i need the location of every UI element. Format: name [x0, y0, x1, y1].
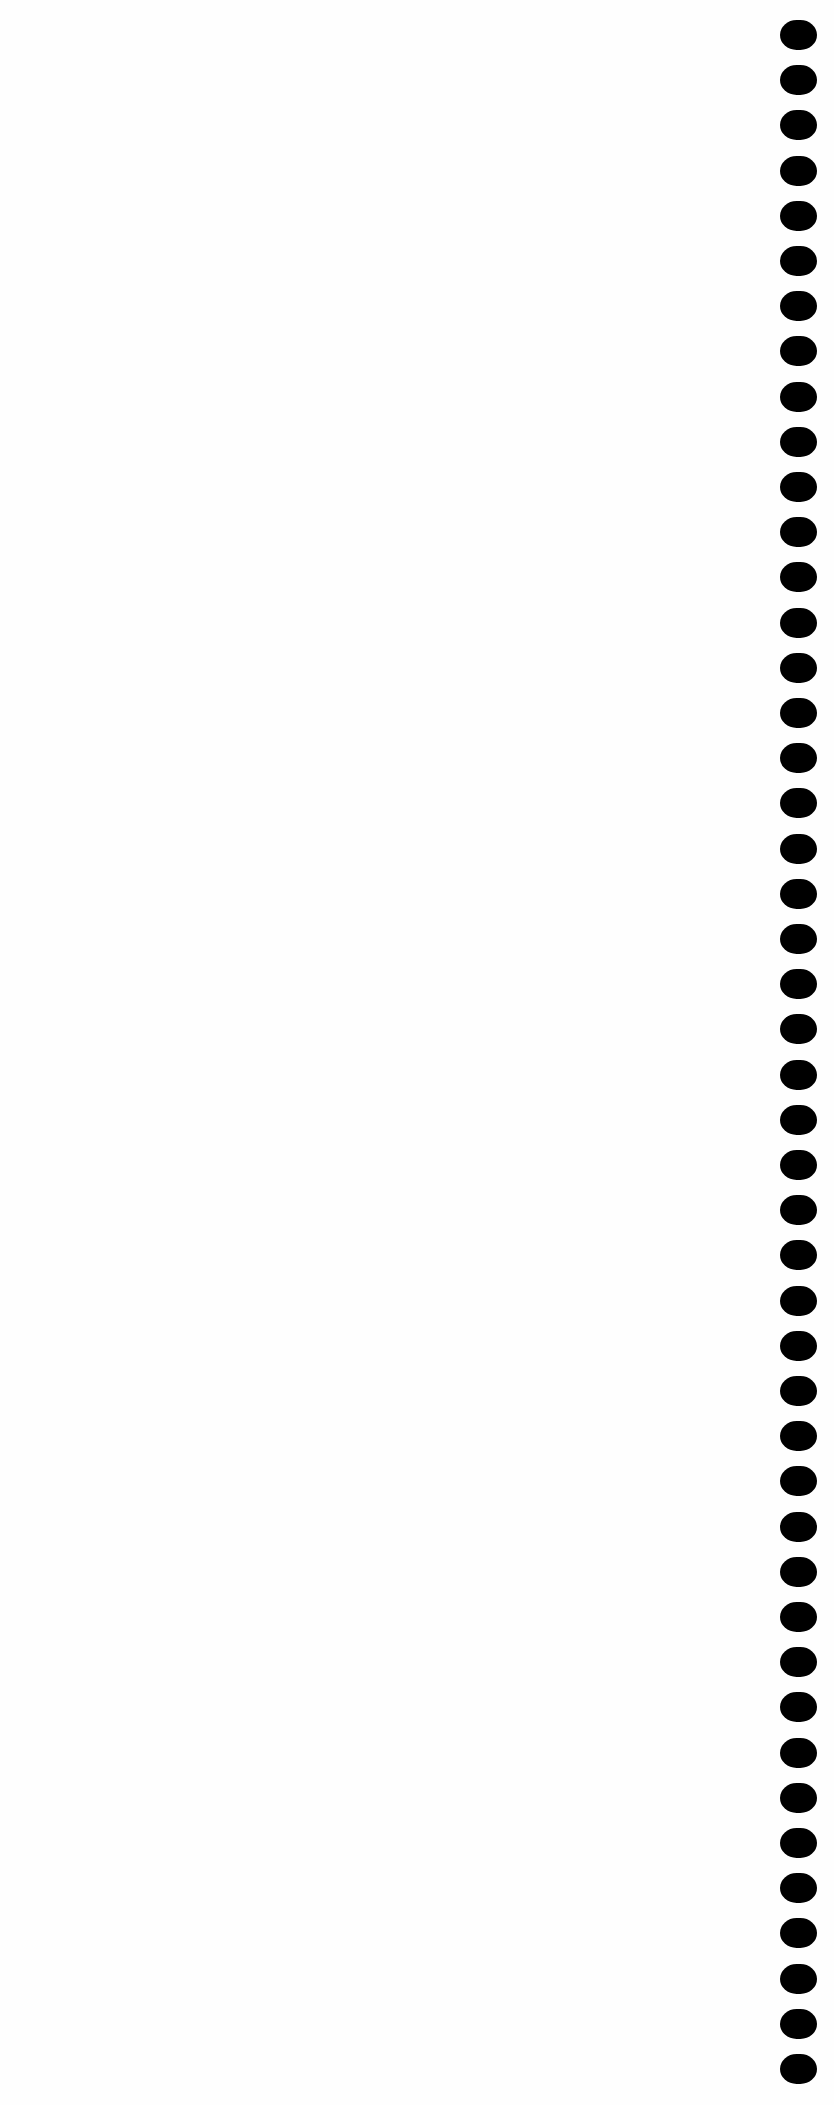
- binding-hole-icon: [780, 1512, 817, 1542]
- binding-hole-icon: [780, 924, 817, 954]
- binding-hole-icon: [780, 1331, 817, 1361]
- binding-hole-icon: [780, 291, 817, 321]
- binding-hole-icon: [780, 698, 817, 728]
- binding-hole-icon: [780, 1286, 817, 1316]
- binding-hole-icon: [780, 1692, 817, 1722]
- binding-hole-icon: [780, 201, 817, 231]
- binding-holes-column: [780, 0, 820, 2105]
- binding-hole-icon: [780, 336, 817, 366]
- binding-hole-icon: [780, 1557, 817, 1587]
- binding-hole-icon: [780, 562, 817, 592]
- binding-hole-icon: [780, 1195, 817, 1225]
- binding-hole-icon: [780, 1738, 817, 1768]
- binding-hole-icon: [780, 788, 817, 818]
- binding-hole-icon: [780, 743, 817, 773]
- binding-hole-icon: [780, 834, 817, 864]
- binding-hole-icon: [780, 1240, 817, 1270]
- binding-hole-icon: [780, 1828, 817, 1858]
- binding-hole-icon: [780, 1783, 817, 1813]
- binding-hole-icon: [780, 2009, 817, 2039]
- binding-hole-icon: [780, 156, 817, 186]
- binding-hole-icon: [780, 2054, 817, 2084]
- binding-hole-icon: [780, 517, 817, 547]
- binding-hole-icon: [780, 653, 817, 683]
- binding-hole-icon: [780, 1918, 817, 1948]
- binding-hole-icon: [780, 1150, 817, 1180]
- binding-hole-icon: [780, 1105, 817, 1135]
- binding-hole-icon: [780, 1376, 817, 1406]
- binding-hole-icon: [780, 382, 817, 412]
- binding-hole-icon: [780, 608, 817, 638]
- binding-hole-icon: [780, 1421, 817, 1451]
- binding-hole-icon: [780, 1602, 817, 1632]
- blank-page: [0, 0, 834, 2105]
- binding-hole-icon: [780, 65, 817, 95]
- binding-hole-icon: [780, 1964, 817, 1994]
- binding-hole-icon: [780, 1060, 817, 1090]
- binding-hole-icon: [780, 246, 817, 276]
- binding-hole-icon: [780, 1014, 817, 1044]
- binding-hole-icon: [780, 969, 817, 999]
- binding-hole-icon: [780, 472, 817, 502]
- binding-hole-icon: [780, 427, 817, 457]
- binding-hole-icon: [780, 879, 817, 909]
- binding-hole-icon: [780, 1873, 817, 1903]
- binding-hole-icon: [780, 1466, 817, 1496]
- binding-hole-icon: [780, 20, 817, 50]
- binding-hole-icon: [780, 1647, 817, 1677]
- binding-hole-icon: [780, 110, 817, 140]
